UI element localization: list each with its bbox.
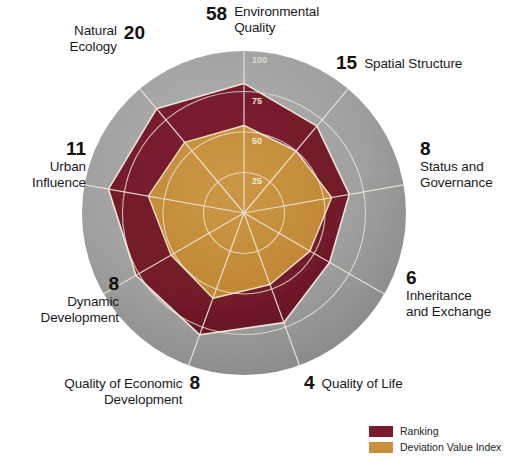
- axis-name-quality-of-life: Quality of Life: [322, 373, 403, 392]
- axis-label-quality-of-economic-development: Quality of Economic Development 8: [20, 373, 200, 407]
- legend-item-ranking: Ranking: [369, 425, 501, 438]
- axis-label-environmental-quality: 58 Environmental Quality: [206, 4, 319, 35]
- axis-value-inheritance-and-exchange: 6: [406, 268, 491, 288]
- axis-value-natural-ecology: 20: [124, 23, 145, 43]
- axis-label-status-and-governance: 8 Status and Governance: [420, 139, 493, 190]
- chart-legend: Ranking Deviation Value Index: [369, 425, 501, 454]
- axis-label-quality-of-life: 4 Quality of Life: [304, 373, 403, 393]
- axis-label-spatial-structure: 15 Spatial Structure: [336, 53, 462, 73]
- axis-name-dynamic-development: Dynamic Development: [0, 294, 119, 325]
- axis-value-quality-of-economic-development: 8: [189, 373, 200, 393]
- axis-value-dynamic-development: 8: [0, 274, 119, 294]
- legend-swatch-ranking: [369, 426, 393, 437]
- axis-value-spatial-structure: 15: [336, 53, 357, 73]
- tick-label-75: 75: [252, 96, 262, 106]
- legend-label-ranking: Ranking: [400, 426, 439, 437]
- tick-label-100: 100: [252, 55, 267, 65]
- axis-label-urban-influence: 11 Urban Influence: [0, 139, 86, 190]
- legend-swatch-deviation-value-index: [369, 442, 393, 453]
- axis-name-quality-of-economic-development: Quality of Economic Development: [64, 373, 182, 407]
- axis-label-dynamic-development: 8 Dynamic Development: [0, 274, 119, 325]
- axis-name-status-and-governance: Status and Governance: [420, 159, 493, 190]
- axis-label-inheritance-and-exchange: 6 Inheritance and Exchange: [406, 268, 491, 319]
- legend-item-deviation-value-index: Deviation Value Index: [369, 441, 501, 454]
- axis-name-spatial-structure: Spatial Structure: [364, 53, 462, 72]
- axis-label-natural-ecology: Natural Ecology 20: [10, 23, 145, 54]
- axis-name-urban-influence: Urban Influence: [0, 159, 86, 190]
- legend-label-deviation-value-index: Deviation Value Index: [400, 442, 501, 453]
- axis-name-inheritance-and-exchange: Inheritance and Exchange: [406, 288, 491, 319]
- axis-name-natural-ecology: Natural Ecology: [70, 23, 117, 54]
- axis-value-status-and-governance: 8: [420, 139, 493, 159]
- tick-label-25: 25: [252, 176, 262, 186]
- radar-chart: 100 75 50 25 58 Environmental Quality 15…: [0, 0, 509, 462]
- tick-label-50: 50: [252, 136, 262, 146]
- axis-value-quality-of-life: 4: [304, 373, 315, 393]
- axis-value-urban-influence: 11: [0, 139, 86, 159]
- axis-name-environmental-quality: Environmental Quality: [234, 4, 319, 35]
- axis-value-environmental-quality: 58: [206, 4, 227, 24]
